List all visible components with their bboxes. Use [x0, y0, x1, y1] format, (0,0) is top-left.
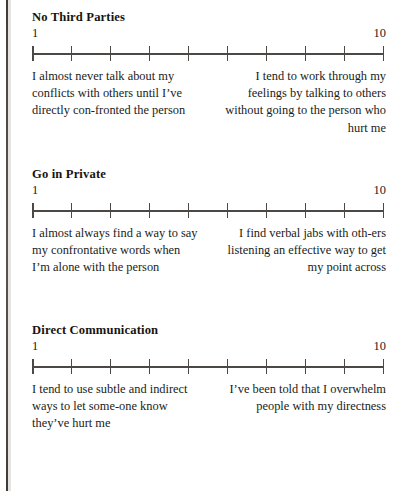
- ruler-tick-1[interactable]: [32, 359, 34, 374]
- ruler-tick-2[interactable]: [71, 46, 73, 61]
- section-title: Go in Private: [32, 167, 386, 182]
- scale-anchor-descriptions: I almost always find a way to say my con…: [32, 225, 386, 277]
- ruler-tick-8[interactable]: [305, 46, 307, 61]
- scale-low-label: 1: [32, 339, 38, 354]
- ruler-tick-10[interactable]: [383, 203, 385, 218]
- ruler-tick-2[interactable]: [71, 359, 73, 374]
- ruler-tick-4[interactable]: [149, 203, 151, 218]
- ruler-tick-7[interactable]: [266, 46, 268, 61]
- ruler-tick-9[interactable]: [344, 359, 346, 374]
- ruler-tick-10[interactable]: [383, 46, 385, 61]
- ruler-tick-1[interactable]: [32, 203, 34, 218]
- ruler-tick-3[interactable]: [110, 203, 112, 218]
- page-sheet: No Third Parties 1 10 I almost never tal…: [0, 0, 406, 491]
- ruler-tick-5[interactable]: [188, 46, 190, 61]
- scale-anchor-descriptions: I almost never talk about my conflicts w…: [32, 68, 386, 137]
- anchor-text-low: I tend to use subtle and indirect ways t…: [32, 381, 200, 433]
- ruler-tick-9[interactable]: [344, 46, 346, 61]
- scale-endpoint-labels: 1 10: [32, 26, 386, 42]
- ruler-tick-6[interactable]: [227, 46, 229, 61]
- ruler-axis-line: [32, 210, 384, 212]
- ruler-tick-4[interactable]: [149, 46, 151, 61]
- rating-scale-ruler[interactable]: [32, 45, 384, 63]
- ruler-tick-7[interactable]: [266, 203, 268, 218]
- rating-scale-ruler[interactable]: [32, 202, 384, 220]
- section-title: No Third Parties: [32, 10, 386, 25]
- anchor-text-high: I find verbal jabs with oth-ers listenin…: [218, 225, 386, 277]
- ruler-axis-line: [32, 366, 384, 368]
- scale-endpoint-labels: 1 10: [32, 339, 386, 355]
- ruler-tick-5[interactable]: [188, 203, 190, 218]
- scale-high-label: 10: [374, 183, 386, 198]
- ruler-axis-line: [32, 53, 384, 55]
- anchor-text-high: I’ve been told that I overwhelm people w…: [218, 381, 386, 433]
- ruler-tick-6[interactable]: [227, 359, 229, 374]
- ruler-tick-8[interactable]: [305, 203, 307, 218]
- scale-section-direct-communication: Direct Communication 1 10 I tend to use …: [32, 323, 386, 433]
- scale-low-label: 1: [32, 183, 38, 198]
- ruler-tick-8[interactable]: [305, 359, 307, 374]
- ruler-tick-7[interactable]: [266, 359, 268, 374]
- ruler-tick-6[interactable]: [227, 203, 229, 218]
- ruler-tick-4[interactable]: [149, 359, 151, 374]
- anchor-text-low: I almost always find a way to say my con…: [32, 225, 200, 277]
- scale-section-no-third-parties: No Third Parties 1 10 I almost never tal…: [32, 10, 386, 137]
- scale-anchor-descriptions: I tend to use subtle and indirect ways t…: [32, 381, 386, 433]
- scale-low-label: 1: [32, 26, 38, 41]
- ruler-tick-2[interactable]: [71, 203, 73, 218]
- ruler-tick-9[interactable]: [344, 203, 346, 218]
- rating-scale-ruler[interactable]: [32, 358, 384, 376]
- scale-high-label: 10: [374, 26, 386, 41]
- scale-high-label: 10: [374, 339, 386, 354]
- ruler-tick-1[interactable]: [32, 46, 34, 61]
- ruler-tick-10[interactable]: [383, 359, 385, 374]
- ruler-tick-3[interactable]: [110, 359, 112, 374]
- scale-section-go-in-private: Go in Private 1 10 I almost always find …: [32, 167, 386, 277]
- scale-endpoint-labels: 1 10: [32, 183, 386, 199]
- ruler-tick-3[interactable]: [110, 46, 112, 61]
- anchor-text-low: I almost never talk about my conflicts w…: [32, 68, 200, 137]
- section-title: Direct Communication: [32, 323, 386, 338]
- anchor-text-high: I tend to work through my feelings by ta…: [218, 68, 386, 137]
- ruler-tick-5[interactable]: [188, 359, 190, 374]
